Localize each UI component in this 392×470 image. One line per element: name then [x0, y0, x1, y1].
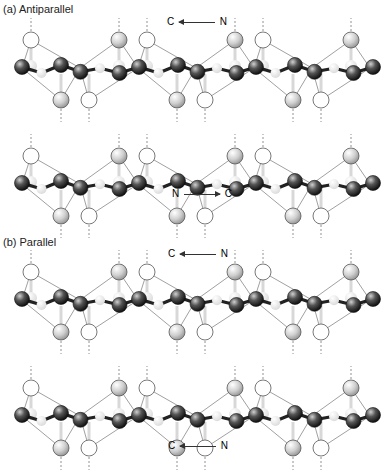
arrow-left-icon — [179, 22, 215, 23]
terminus-right: N — [220, 16, 227, 27]
direction-label-a1: C N — [167, 16, 227, 27]
terminus-left: C — [167, 16, 174, 27]
panel-a-label: (a) Antiparallel — [3, 3, 73, 15]
direction-label-b2: C N — [168, 440, 228, 451]
panel-b-label: (b) Parallel — [3, 236, 56, 248]
terminus-left: C — [168, 440, 175, 451]
arrow-right-icon — [184, 194, 220, 195]
beta-sheet-diagram — [0, 0, 392, 470]
terminus-left: N — [172, 188, 179, 199]
arrow-left-icon — [180, 446, 216, 447]
terminus-right: C — [225, 188, 232, 199]
terminus-right: N — [221, 248, 228, 259]
terminus-left: C — [168, 248, 175, 259]
direction-label-a2: N C — [172, 188, 232, 199]
direction-label-b1: C N — [168, 248, 228, 259]
terminus-right: N — [221, 440, 228, 451]
arrow-left-icon — [180, 254, 216, 255]
